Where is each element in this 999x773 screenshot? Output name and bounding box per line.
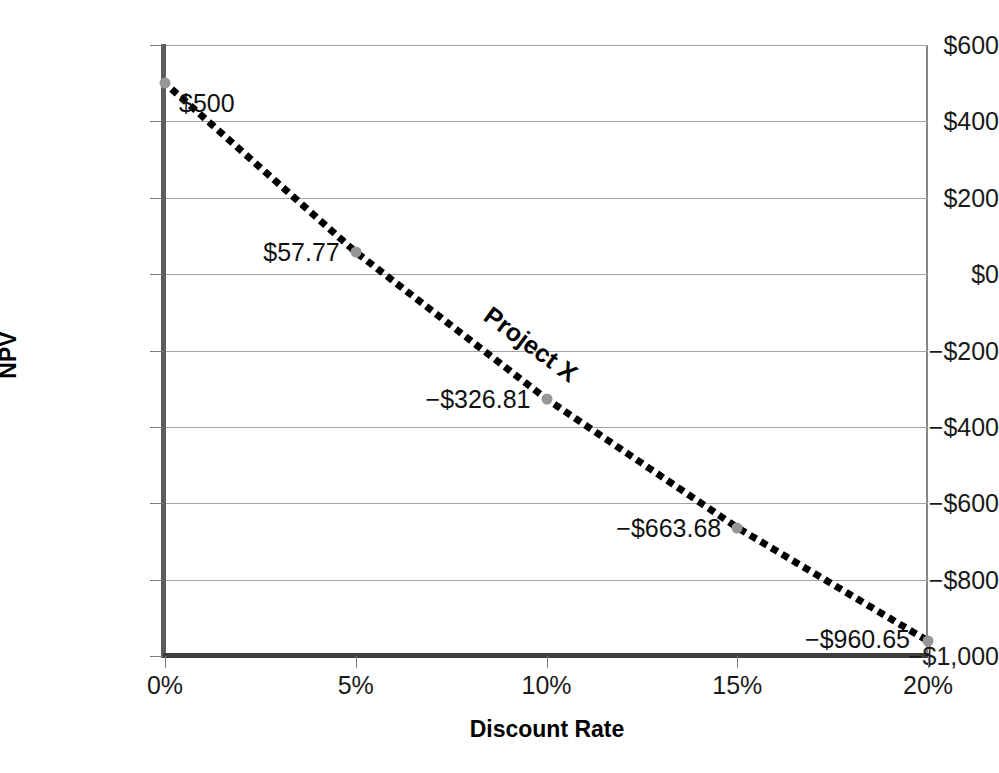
data-point-marker xyxy=(923,635,934,646)
y-axis-tick xyxy=(150,121,163,122)
data-point-marker xyxy=(350,247,361,258)
y-axis-tick-label: −$400 xyxy=(853,414,999,439)
npv-profile-chart: $600$400$200$0−$200−$400−$600−$800−$1,00… xyxy=(0,0,999,773)
y-axis-tick-label: −$200 xyxy=(853,338,999,363)
y-axis-tick-label: $400 xyxy=(853,109,999,134)
gridline xyxy=(165,121,928,122)
x-axis-tick xyxy=(356,656,357,668)
x-axis-tick xyxy=(165,656,166,668)
y-axis-tick-label: $200 xyxy=(853,185,999,210)
y-axis-tick-label: −$600 xyxy=(853,491,999,516)
gridline xyxy=(165,198,928,199)
y-axis-tick xyxy=(150,351,163,352)
y-axis-tick xyxy=(150,580,163,581)
x-axis-tick-label: 15% xyxy=(712,673,762,698)
y-axis-tick xyxy=(150,45,163,46)
data-point-marker xyxy=(541,393,552,404)
data-point-marker xyxy=(160,78,171,89)
y-axis-tick xyxy=(150,656,163,657)
x-axis-title: Discount Rate xyxy=(470,716,625,743)
data-point-label: −$663.68 xyxy=(0,515,721,540)
y-axis-title: NPV xyxy=(0,331,22,378)
gridline xyxy=(165,503,928,504)
y-axis-tick-label: $0 xyxy=(853,262,999,287)
data-point-label: −$960.65 xyxy=(0,626,910,651)
gridline xyxy=(165,580,928,581)
gridline xyxy=(165,274,928,275)
data-point-label: $500 xyxy=(179,91,235,116)
y-axis-tick xyxy=(150,274,163,275)
x-axis-tick xyxy=(737,656,738,668)
data-point-marker xyxy=(732,522,743,533)
y-axis-tick xyxy=(150,198,163,199)
y-axis-tick xyxy=(150,427,163,428)
data-point-label: −$326.81 xyxy=(0,386,531,411)
x-axis-tick xyxy=(547,656,548,668)
x-axis-tick-label: 5% xyxy=(338,673,374,698)
x-axis-tick-label: 10% xyxy=(521,673,571,698)
y-axis-tick-label: −$800 xyxy=(853,567,999,592)
x-axis-tick-label: 0% xyxy=(147,673,183,698)
data-point-label: $57.77 xyxy=(0,240,340,265)
gridline xyxy=(165,45,928,46)
gridline xyxy=(165,427,928,428)
y-axis-tick xyxy=(150,503,163,504)
x-axis-tick-label: 20% xyxy=(903,673,953,698)
y-axis-tick-label: $600 xyxy=(853,33,999,58)
x-axis-tick xyxy=(928,656,929,668)
